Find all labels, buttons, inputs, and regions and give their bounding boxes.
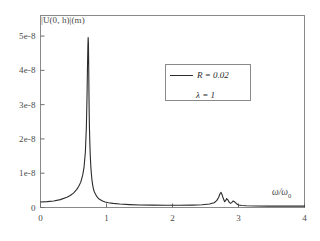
- legend-entry-r: R = 0.02: [170, 70, 229, 80]
- x-tick-label: 1: [104, 213, 109, 223]
- y-tick-label: 4e-8: [19, 65, 35, 75]
- y-tick-label: 1e-8: [19, 168, 35, 178]
- x-axis-label-symbol: ω/ω: [272, 187, 288, 197]
- x-tick-label: 4: [302, 213, 307, 223]
- y-tick-label: 2e-8: [19, 134, 35, 144]
- x-axis-label-subscript: 0: [288, 192, 291, 199]
- x-axis-label: ω/ω0: [272, 187, 291, 199]
- plot-frame: [41, 16, 305, 208]
- y-tick-label: 5e-8: [19, 31, 35, 41]
- plot-canvas: [0, 0, 320, 241]
- x-tick-label: 2: [170, 213, 175, 223]
- legend-entry-lambda: λ = 1: [196, 84, 215, 102]
- legend-label-r: R = 0.02: [197, 70, 229, 80]
- legend-line-sample-icon: [170, 75, 193, 76]
- y-tick-label: 3e-8: [19, 100, 35, 110]
- y-axis-label: |U(0, h)|(m): [41, 15, 85, 25]
- legend-label-lambda: λ = 1: [196, 90, 215, 100]
- legend-box: R = 0.02 λ = 1: [165, 64, 251, 101]
- x-tick-label: 3: [236, 213, 241, 223]
- x-tick-label: 0: [38, 213, 43, 223]
- y-tick-label: 0: [31, 203, 36, 213]
- chart-figure: |U(0, h)|(m) ω/ω0 5e-84e-83e-82e-81e-80 …: [0, 0, 320, 241]
